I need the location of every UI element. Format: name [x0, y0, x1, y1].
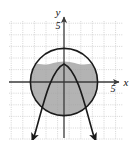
- x-tick-label-5: 5: [111, 83, 116, 94]
- parabola-left-arrow: [32, 134, 35, 142]
- y-tick-label-5: 5: [56, 20, 61, 31]
- axes: [9, 17, 119, 138]
- math-graph-figure: y 5 x 5: [0, 0, 135, 144]
- parabola-right-arrow: [93, 134, 96, 142]
- y-axis-label: y: [55, 6, 61, 18]
- graph-canvas: y 5 x 5: [0, 0, 135, 144]
- x-axis-label: x: [123, 76, 129, 88]
